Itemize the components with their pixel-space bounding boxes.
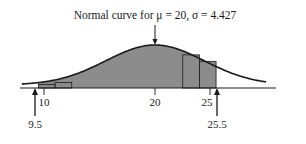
- histogram-bar: [55, 82, 72, 88]
- arrow-up-icon: [32, 88, 38, 116]
- marker-label-9-5: 9.5: [28, 118, 42, 130]
- tick-label-20: 20: [150, 96, 162, 108]
- arrow-down-icon: [153, 25, 158, 45]
- arrow-up-icon: [214, 88, 220, 116]
- normal-approximation-figure: 10 20 25 9.5 25.5 Normal curve for μ = 2…: [0, 0, 306, 144]
- marker-label-25-5: 25.5: [207, 118, 227, 130]
- tick-label-25: 25: [202, 96, 214, 108]
- chart-title: Normal curve for μ = 20, σ = 4.427: [74, 9, 237, 22]
- histogram-bar: [183, 55, 200, 88]
- tick-label-10: 10: [39, 96, 51, 108]
